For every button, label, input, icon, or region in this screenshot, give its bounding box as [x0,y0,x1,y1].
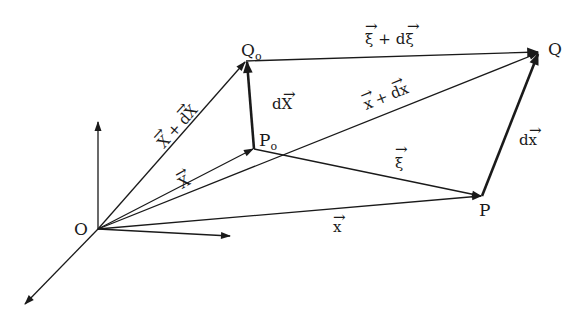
vector-x [98,196,481,229]
label-dX: dX → [272,85,296,113]
label-xi: ξ → [395,140,408,172]
horizontal-axis [98,229,230,236]
label-X: X → [170,161,196,192]
label-Q: Q [548,39,562,59]
vector-xi-plus-dxi [246,52,538,61]
depth-axis [25,229,98,304]
label-Q0: Qo [241,40,262,63]
svg-text:→: → [283,85,296,103]
svg-text:→: → [395,140,408,158]
label-x: x → [333,208,346,236]
label-dx: dx → [519,121,542,149]
deformation-vector-diagram: O Qo Po P Q X+dX → → X → dX → ξ+dξ → → [0,0,582,320]
svg-text:→: → [365,17,378,35]
label-P0: Po [259,130,277,153]
label-O: O [74,219,88,239]
svg-text:→: → [407,17,420,35]
svg-text:→: → [529,121,542,139]
label-P: P [479,200,490,220]
vector-xi [254,149,481,196]
svg-text:→: → [333,208,346,226]
label-xi-plus-dxi: ξ+dξ → → [365,17,420,48]
coordinate-axes [25,122,230,304]
vector-dX [247,62,254,149]
